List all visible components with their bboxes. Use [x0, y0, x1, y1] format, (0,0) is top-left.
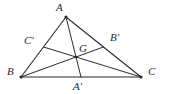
label-midpoint-B-prime: B' [110, 32, 119, 43]
label-midpoint-C-prime: C' [24, 35, 34, 46]
label-vertex-B: B [7, 66, 14, 77]
label-vertex-A: A [56, 2, 63, 13]
label-centroid-G: G [79, 43, 87, 54]
point-C-dot [139, 75, 142, 78]
point-A-dot [64, 15, 67, 18]
label-vertex-C: C [148, 66, 155, 77]
label-midpoint-A-prime: A' [73, 81, 82, 92]
point-G-dot [75, 56, 77, 58]
point-B-dot [19, 75, 22, 78]
geometry-figure: A B C C' B' A' G [0, 0, 171, 94]
